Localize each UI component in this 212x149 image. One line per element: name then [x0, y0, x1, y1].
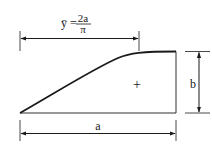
height-label: b	[190, 77, 196, 91]
height-dimension: b	[185, 52, 210, 114]
width-dimension: a	[20, 119, 176, 141]
sine-curve	[20, 52, 176, 114]
area-shape	[20, 52, 176, 114]
centroid-diagram: ȳ = 2a π + b a	[0, 0, 212, 149]
formula-denominator: π	[80, 23, 86, 35]
formula-ybar: ȳ = 2a π	[61, 12, 91, 35]
formula-equals: =	[70, 16, 77, 30]
centroid-marker: +	[133, 77, 141, 92]
width-label: a	[95, 119, 101, 133]
formula-lhs: ȳ	[61, 16, 67, 30]
